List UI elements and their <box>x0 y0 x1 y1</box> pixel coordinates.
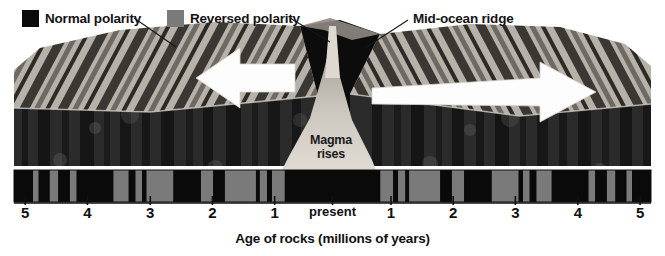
polarity-stripe <box>213 170 225 202</box>
polarity-stripe <box>536 170 551 202</box>
axis-tick-label-7: 2 <box>449 205 457 220</box>
axis-tick-label-4: 1 <box>270 205 278 220</box>
polarity-stripe <box>519 170 523 202</box>
polarity-stripe <box>285 170 333 202</box>
axis-tick-label-2: 3 <box>146 205 154 220</box>
axis-tick-label-1: 4 <box>83 205 91 220</box>
figure-canvas: Normal polarity Reversed polarity Mid-oc… <box>0 0 665 256</box>
polarity-stripe <box>142 170 146 202</box>
polarity-stripe <box>272 170 285 202</box>
reversed-polarity-swatch-icon <box>167 10 184 27</box>
label-magma-line1: Magma <box>286 133 376 147</box>
polarity-stripe <box>615 170 626 202</box>
polarity-stripe <box>14 170 33 202</box>
polarity-stripe <box>113 170 128 202</box>
label-magma-line2: rises <box>286 147 376 161</box>
axis-tick-label-9: 4 <box>574 205 582 220</box>
polarity-stripe <box>607 170 616 202</box>
polarity-stripe <box>135 170 142 202</box>
polarity-stripe <box>76 170 113 202</box>
polarity-stripe <box>267 170 272 202</box>
polarity-stripe <box>398 170 405 202</box>
polarity-stripe <box>50 170 59 202</box>
polarity-stripe <box>260 170 267 202</box>
polarity-stripe <box>39 170 50 202</box>
axis-tick-labels: 54321present12345 <box>0 205 665 229</box>
polarity-stripe <box>256 170 260 202</box>
polarity-stripe <box>409 170 440 202</box>
polarity-stripe <box>589 170 596 202</box>
axis-tick-label-3: 2 <box>208 205 216 220</box>
polarity-stripe <box>627 170 633 202</box>
polarity-stripe <box>523 170 530 202</box>
polarity-stripe <box>632 170 651 202</box>
axis-caption: Age of rocks (millions of years) <box>0 231 665 246</box>
polarity-stripe <box>129 170 136 202</box>
axis-tick-label-5: present <box>309 205 356 218</box>
polarity-stripe <box>595 170 607 202</box>
polarity-stripe <box>405 170 409 202</box>
axis-tick-label-0: 5 <box>21 205 29 220</box>
polarity-stripe <box>58 170 70 202</box>
polarity-stripe <box>440 170 452 202</box>
polarity-stripe <box>464 170 492 202</box>
label-mid-ocean-ridge: Mid-ocean ridge <box>413 12 514 26</box>
legend-label-reversed-polarity: Reversed polarity <box>190 12 300 26</box>
polarity-stripe <box>225 170 256 202</box>
polarity-stripe <box>33 170 39 202</box>
normal-polarity-swatch-icon <box>22 10 39 27</box>
axis-tick-label-10: 5 <box>636 205 644 220</box>
polarity-stripe <box>333 170 381 202</box>
polarity-stripe <box>201 170 213 202</box>
polarity-stripe <box>530 170 537 202</box>
legend-label-normal-polarity: Normal polarity <box>45 12 141 26</box>
polarity-stripe <box>70 170 77 202</box>
axis-tick-label-8: 3 <box>511 205 519 220</box>
legend-item-reversed-polarity: Reversed polarity <box>167 10 300 27</box>
label-magma-rises: Magma rises <box>286 133 376 161</box>
axis-tick-label-6: 1 <box>387 205 395 220</box>
legend-item-normal-polarity: Normal polarity <box>22 10 141 27</box>
polarity-stripe <box>552 170 589 202</box>
polarity-stripe <box>393 170 398 202</box>
polarity-stripe <box>173 170 201 202</box>
